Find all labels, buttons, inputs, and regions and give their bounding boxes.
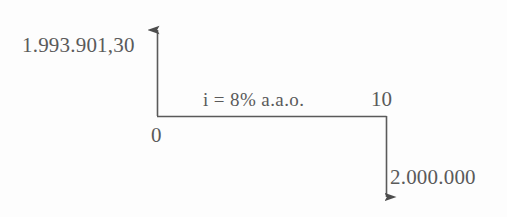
interest-rate-label: i = 8% a.a.o. [203, 90, 304, 109]
present-value-label: 1.993.901,30 [22, 35, 135, 56]
cash-flow-diagram: 1.993.901,30 0 i = 8% a.a.o. 10 2.000.00… [0, 0, 507, 217]
period-label: 10 [371, 89, 392, 110]
future-value-label: 2.000.000 [390, 167, 476, 188]
origin-label: 0 [151, 125, 162, 146]
